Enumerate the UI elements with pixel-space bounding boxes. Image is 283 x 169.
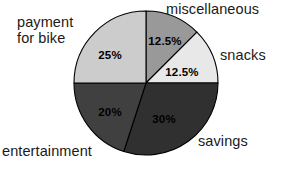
category-label-miscellaneous: miscellaneous	[166, 1, 259, 17]
category-label-savings: savings	[198, 133, 248, 149]
pie-percent-entertainment: 20%	[98, 106, 122, 118]
payment-for-bike-line2: for bike	[17, 30, 65, 46]
category-label-payment-for-bike: paymentfor bike	[17, 14, 73, 46]
pie-percent-snacks: 12.5%	[165, 66, 199, 78]
pie-slice-payment-for-bike	[74, 11, 146, 83]
pie-percent-savings: 30%	[152, 113, 176, 125]
pie-percent-payment-for-bike: 25%	[98, 49, 122, 61]
pie-chart-figure: 12.5%12.5%30%20%25% miscellaneous snacks…	[0, 0, 283, 169]
category-label-entertainment: entertainment	[2, 143, 92, 159]
pie-slice-group	[74, 11, 218, 155]
pie-percent-miscellaneous: 12.5%	[148, 35, 182, 47]
payment-for-bike-line1: payment	[17, 14, 73, 30]
category-label-snacks: snacks	[220, 47, 266, 63]
